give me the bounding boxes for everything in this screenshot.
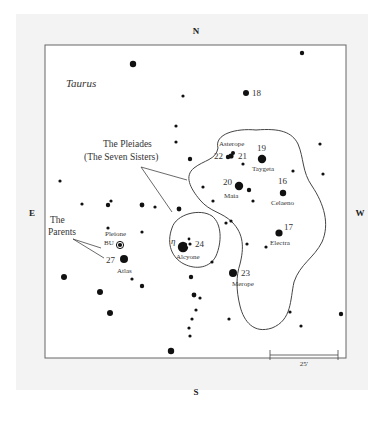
star-alcyone-companion-2 bbox=[188, 238, 191, 241]
star-celaeno bbox=[280, 190, 286, 196]
constellation-title: Taurus bbox=[66, 77, 96, 89]
parents-label-2: Parents bbox=[48, 227, 76, 237]
star-merope bbox=[229, 269, 237, 277]
taygeta-label: Taygeta bbox=[252, 165, 275, 173]
maia-number: 20 bbox=[223, 177, 233, 187]
atlas-label: Atlas bbox=[117, 267, 132, 275]
alcyone-number: 24 bbox=[195, 239, 205, 249]
star-22-number: 22 bbox=[214, 151, 223, 161]
star-atlas bbox=[120, 255, 128, 263]
star-22 bbox=[226, 155, 230, 159]
electra-label: Electra bbox=[270, 239, 291, 247]
alcyone-greek: η bbox=[171, 236, 176, 246]
star-taygeta bbox=[258, 155, 266, 163]
star-electra bbox=[275, 229, 282, 236]
star-maia bbox=[235, 182, 243, 190]
celaeno-number: 16 bbox=[278, 176, 288, 186]
star-18 bbox=[243, 90, 249, 96]
electra-number: 17 bbox=[284, 222, 294, 232]
maia-label: Maia bbox=[224, 192, 239, 200]
star-pleione bbox=[118, 243, 122, 247]
star-21b bbox=[241, 162, 244, 165]
merope-number: 23 bbox=[241, 268, 251, 278]
east-label: E bbox=[29, 208, 35, 218]
star-alcyone-companion bbox=[188, 242, 191, 245]
merope-label: Merope bbox=[232, 280, 254, 288]
parents-label-1: The bbox=[50, 215, 65, 225]
pleiades-star-chart: N S E W Taurus The Pleiades (The Seven S… bbox=[0, 0, 382, 421]
pleiades-label-1: The Pleiades bbox=[103, 139, 152, 149]
alcyone-label: Alcyone bbox=[176, 253, 200, 261]
south-label: S bbox=[193, 387, 198, 397]
west-label: W bbox=[356, 208, 365, 218]
north-label: N bbox=[193, 26, 200, 36]
star-18-number: 18 bbox=[252, 88, 262, 98]
star-21 bbox=[231, 151, 235, 155]
atlas-number: 27 bbox=[106, 255, 116, 265]
pleiades-label-2: (The Seven Sisters) bbox=[84, 152, 158, 163]
scale-bar-label: 25' bbox=[300, 360, 308, 368]
star-maia-companion bbox=[247, 188, 251, 192]
taygeta-number: 19 bbox=[257, 143, 267, 153]
pleione-label: Pleione bbox=[105, 230, 126, 238]
asterope-label: Asterope bbox=[219, 140, 244, 148]
star-alcyone bbox=[178, 242, 188, 252]
pleione-designation: BU bbox=[104, 239, 114, 247]
celaeno-label: Celaeno bbox=[271, 199, 294, 207]
star-21-number: 21 bbox=[238, 151, 247, 161]
